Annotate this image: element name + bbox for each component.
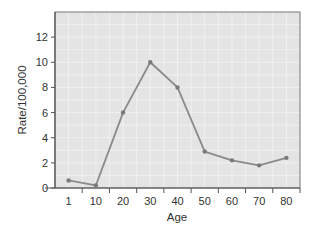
x-tick-label: 10: [90, 195, 102, 207]
y-axis: 024681012: [36, 12, 55, 194]
y-tick-label: 8: [42, 81, 48, 93]
data-point-marker: [94, 183, 98, 187]
data-point-marker: [230, 158, 234, 162]
x-axis: 11020304050607080: [45, 188, 300, 207]
data-point-marker: [175, 85, 179, 89]
x-axis-title: Age: [167, 211, 187, 223]
y-tick-label: 2: [42, 157, 48, 169]
data-point-marker: [257, 163, 261, 167]
data-point-marker: [203, 149, 207, 153]
data-point-marker: [66, 178, 70, 182]
y-tick-label: 6: [42, 107, 48, 119]
data-point-marker: [148, 60, 152, 64]
x-tick-label: 50: [199, 195, 211, 207]
x-tick-label: 1: [66, 195, 72, 207]
line-chart: 024681012 11020304050607080 Rate/100,000…: [0, 0, 316, 238]
x-tick-label: 30: [144, 195, 156, 207]
y-tick-label: 12: [36, 31, 48, 43]
y-tick-label: 10: [36, 56, 48, 68]
y-tick-label: 4: [42, 132, 48, 144]
x-tick-label: 70: [253, 195, 265, 207]
data-point-marker: [284, 156, 288, 160]
x-tick-label: 60: [226, 195, 238, 207]
y-axis-title: Rate/100,000: [16, 65, 28, 134]
x-tick-label: 40: [171, 195, 183, 207]
x-tick-label: 80: [280, 195, 292, 207]
data-point-marker: [121, 110, 125, 114]
x-tick-label: 20: [117, 195, 129, 207]
